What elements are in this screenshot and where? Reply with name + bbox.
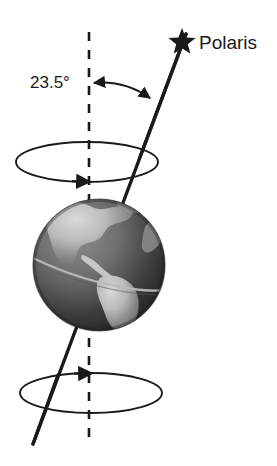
earth-globe-icon — [33, 197, 165, 331]
diagram-canvas: 23.5° Polaris — [0, 0, 277, 466]
upper-precession-direction-arrow — [72, 181, 90, 182]
axial-tilt-diagram: 23.5° Polaris — [0, 0, 277, 466]
polaris-label: Polaris — [199, 32, 257, 53]
tilt-angle-label: 23.5° — [30, 73, 70, 92]
